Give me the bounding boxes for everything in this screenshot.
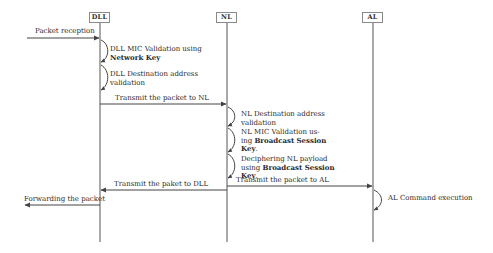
label-nl-dest-line2: validation [241, 119, 325, 128]
label-nl-decipher-line3-bold: Key [241, 171, 255, 180]
self-loop-dll-mic [101, 40, 108, 62]
self-loop-nl-decipher [228, 154, 235, 178]
label-nl-decipher-line2-bold: Broadcast Session [263, 163, 335, 172]
self-loop-nl-mic [228, 128, 235, 152]
self-loop-dll-dest [101, 65, 108, 90]
label-nl-dest-line1: NL Destination address [241, 110, 325, 119]
participant-dll: DLL [89, 12, 110, 23]
label-transmit-to-nl: Transmit the packet to NL [115, 94, 209, 103]
participant-nl: NL [216, 12, 237, 23]
label-dll-dest-validation: DLL Destination address validation [110, 70, 198, 87]
self-loop-al-exec [374, 190, 382, 210]
self-loop-nl-dest [228, 107, 235, 126]
label-dll-mic-validation: DLL MIC Validation using Network Key [110, 45, 202, 62]
label-transmit-to-dll: Transmit the paket to DLL [114, 180, 208, 189]
label-nl-decipher-line3: Key. [241, 172, 334, 181]
label-forwarding: Forwarding the packet [24, 195, 105, 204]
label-nl-mic-line2-bold: Broadcast Session [254, 136, 326, 145]
label-nl-dest-validation: NL Destination address validation [241, 110, 325, 127]
label-dll-dest-line1: DLL Destination address [110, 70, 198, 79]
label-nl-mic-line3: Key. [241, 145, 326, 154]
label-nl-decipher-line3-post: . [255, 172, 257, 180]
label-dll-mic-bold: Network Key [110, 53, 160, 62]
label-nl-decipher: Deciphering NL payload using Broadcast S… [241, 155, 334, 181]
label-nl-mic-line3-post: . [255, 145, 257, 153]
label-al-command-execution: AL Command execution [388, 194, 473, 203]
label-dll-dest-line2: validation [110, 79, 198, 88]
label-dll-mic-line2: Network Key [110, 54, 202, 63]
label-nl-mic-validation: NL MIC Validation us- ing Broadcast Sess… [241, 128, 326, 154]
participant-al: AL [362, 12, 383, 23]
label-nl-mic-line3-bold: Key [241, 144, 255, 153]
label-packet-reception: Packet reception [35, 27, 95, 36]
